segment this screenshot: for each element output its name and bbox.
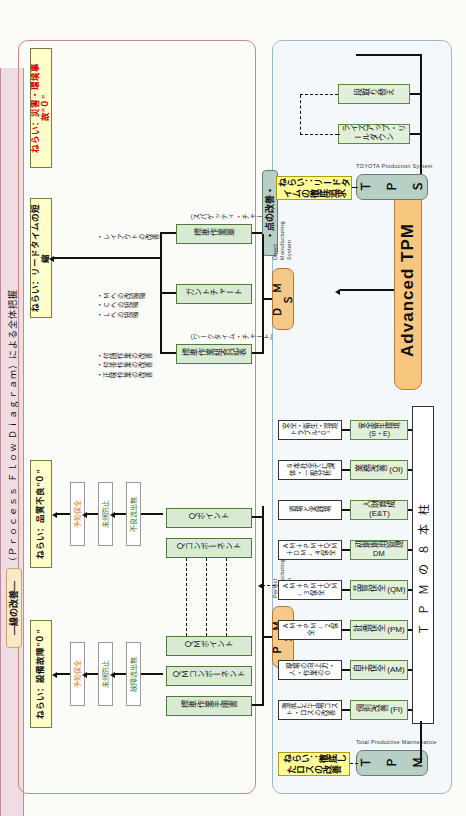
pms-q-component-box: Ｑコンポーネント: [166, 538, 252, 558]
dash-tps-up-a: [300, 134, 338, 135]
pillar-gyoumu-kaizen[interactable]: 業務改善 (OI): [350, 460, 408, 480]
tpm-english-label: Total Productive Maintenance: [356, 739, 437, 746]
connector-pms-up-a: [252, 705, 262, 707]
connector-dms-top-c: [160, 233, 176, 235]
connector-pillar-8-desc: [342, 430, 350, 432]
group-line-label: —線の改善—: [6, 568, 22, 648]
chain-furyou-ryuushutsu: 不良流出無: [126, 482, 141, 546]
pillar-jishu-hozen-desc: 現場の向上力・人・作業の０: [278, 660, 342, 680]
pillar-shoki-kanri[interactable]: 初期期用管理 DM: [350, 540, 408, 560]
connector-q-4: [141, 514, 163, 516]
dash-qm-link-2: [206, 558, 207, 636]
connector-tps-right-foot: [420, 56, 422, 94]
tps-abbr-box[interactable]: Ｔ Ｐ Ｓ: [356, 174, 428, 200]
pillar-hinshitsu-hozen[interactable]: 品質保全 (QM): [350, 580, 408, 600]
dms-bullets-mid: ・Ｍへの改編縮 ・Ｃへの短縮 ・Ｌへの短縮: [96, 292, 145, 320]
connector-tpm-band-bus: [420, 721, 422, 763]
connector-pillar-7-desc: [342, 470, 350, 472]
goal-tpm-loss-box: ねらい：徹底したロスの改善: [278, 752, 350, 776]
arrow-advtpm-up: [335, 289, 340, 295]
dash-qm-link-3: [226, 558, 227, 636]
pillar-anzen-eisei[interactable]: 安全衛生環境(S・E): [350, 420, 408, 440]
goal-quality-box: ねらい：品質不良”０”: [30, 460, 52, 568]
pms-q-point-box: Ｑポイント: [166, 508, 252, 528]
connector-pms-bus: [262, 506, 264, 706]
arrow-eq-3: [110, 672, 115, 678]
pillar-kobetsu-kaizen-desc: 徹底した工場コスト・ロスの改善: [278, 700, 342, 720]
dash-qm-link-1: [186, 558, 187, 636]
connector-pms-down: [262, 637, 272, 639]
arrow-q-1: [52, 512, 57, 518]
pillar-jinzai-ikusei-desc: 道場と実践場: [278, 500, 342, 520]
arrow-pms-to-cluster: [258, 583, 263, 589]
connector-dms-bus: [262, 234, 264, 354]
dms-std-work-volume-sub: （スパゲッティ・チャート）: [186, 214, 277, 222]
dms-std-work-volume-box: 標準作業量: [176, 224, 252, 244]
connector-tps-a: [410, 134, 420, 136]
arrow-leadtime: [49, 256, 54, 262]
tpm-pillar-band: ＴＰＭの８本柱: [412, 406, 434, 724]
dms-abbr-box[interactable]: Ｄ Ｍ Ｓ: [272, 268, 294, 330]
connector-eq-1: [57, 674, 70, 676]
tps-dandori-kae-box[interactable]: 段取り替え: [338, 84, 410, 104]
connector-dms-top-a: [160, 353, 176, 355]
connector-dms-top-bus: [160, 234, 162, 354]
connector-leadtime: [52, 258, 160, 260]
connector-pillar-6-band: [408, 510, 412, 512]
chain-koshou-ryuushutsu: 故障流出無: [126, 642, 141, 706]
tpm-abbr-box[interactable]: Ｔ Ｐ Ｍ: [356, 750, 428, 776]
dash-tps-to-goal: [352, 187, 358, 188]
connector-pillar-6-desc: [342, 510, 350, 512]
connector-advtpm-up: [340, 290, 394, 292]
pillar-jinzai-ikusei[interactable]: 人財育成 (E&T): [350, 500, 408, 520]
connector-pillar-5-desc: [342, 550, 350, 552]
connector-dms-top-b: [160, 293, 176, 295]
connector-q-1: [57, 514, 70, 516]
pms-qm-point-box: ＱＭポイント: [166, 636, 252, 656]
dash-tps-up-b: [300, 94, 338, 95]
goal-equipment-box: ねらい：設備故障”０”: [30, 620, 52, 728]
connector-pillar-1-desc: [342, 710, 350, 712]
connector-pillar-2-desc: [342, 670, 350, 672]
pillar-keikaku-hozen[interactable]: 計画保全 (PM): [350, 620, 408, 640]
tps-lineup-leadtime-box[interactable]: ライズアップ・リールダウン: [338, 124, 410, 144]
connector-dms-up-a: [252, 353, 262, 355]
arrow-q-3: [110, 512, 115, 518]
connector-pillar-1-band: [408, 710, 412, 712]
pillar-anzen-eisei-desc: 安全・衛生・環境トラブル”０”: [278, 420, 342, 440]
connector-pillar-2-band: [408, 670, 412, 672]
connector-pillar-8-band: [408, 430, 412, 432]
connector-pillar-4-band: [408, 590, 412, 592]
connector-pillar-3-desc: [342, 630, 350, 632]
connector-pillar-7-band: [408, 470, 412, 472]
dms-bullets-left: ・付随作業の改善 ・付帯作業の改善 ・正味作業の改善: [96, 352, 152, 380]
pillar-keikaku-hozen-desc: ＡＭ＋ＰＭ→２保全: [278, 620, 342, 640]
pillar-kobetsu-kaizen[interactable]: 個別改善 (FI): [350, 700, 408, 720]
connector-eq-4: [141, 674, 163, 676]
dms-std-work-combination-box: 標準作業組合記表: [176, 344, 252, 364]
goal-safety-box: ねらい：災害・環境事故”０”: [30, 48, 52, 168]
advanced-tpm-box[interactable]: Advanced TPM: [394, 190, 422, 390]
pillar-gyoumu-kaizen-desc: ８本社全てに課体・一般分析: [278, 460, 342, 480]
pillar-jishu-hozen[interactable]: 自主保全 (AM): [350, 660, 408, 680]
diagram-canvas: —線の改善— ・点の改善・ Advanced TPM ねらい：設備故障”０” ね…: [0, 0, 466, 816]
pms-std-work-procedure-box: 標準作業手順書: [166, 696, 252, 716]
goal-tps-lead-box: ねらい：リードタイムの徹底追求: [276, 176, 352, 200]
connector-tps-right-riser: [356, 55, 422, 57]
dash-tpm-to-goal: [350, 763, 358, 764]
connector-dms-down: [262, 299, 272, 301]
pillar-hinshitsu-hozen-desc: ＡＭ＋ＰＭ＋ＱＭ→３保全: [278, 580, 342, 600]
connector-pillar-5-band: [408, 550, 412, 552]
dash-tps-top: [300, 95, 301, 135]
dms-bullets-right: ・レイアウトの改善: [96, 233, 159, 242]
dms-gantt-chart-box: ガントチャート: [176, 284, 252, 304]
arrow-eq-2: [82, 672, 87, 678]
connector-tps-bus: [420, 94, 422, 174]
connector-dms-up-b: [252, 233, 262, 235]
arrow-q-2: [82, 512, 87, 518]
connector-pillar-4-desc: [342, 590, 350, 592]
connector-tps-b: [410, 94, 420, 96]
pillar-shoki-kanri-desc: ＡＭ＋ＰＭ＋ＱＭ＋ＤＭ→４保全: [278, 540, 342, 560]
dash-tps-to-pfd: [336, 134, 340, 135]
connector-pillar-3-band: [408, 630, 412, 632]
